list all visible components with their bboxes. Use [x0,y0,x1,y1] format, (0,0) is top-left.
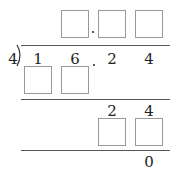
quotient-decimal-point [92,31,94,33]
subtraction-line-2 [21,150,170,151]
remainder-digit-2: 4 [142,103,156,119]
remainder-digit-1: 2 [105,103,119,119]
final-remainder: 0 [142,154,156,170]
dividend-digit-1: 1 [31,51,45,67]
dividend-digit-4: 4 [142,51,156,67]
dividend-digit-2: 6 [68,51,82,67]
subtraction-line-1 [21,99,170,100]
division-bar [21,45,170,46]
first-product-box-1[interactable] [24,66,52,94]
second-product-box-1[interactable] [98,118,126,146]
first-product-box-2[interactable] [61,66,89,94]
quotient-box-ones[interactable] [61,10,89,38]
second-product-box-2[interactable] [135,118,163,146]
dividend-decimal-point [93,64,95,66]
divisor: 4 [6,51,20,67]
quotient-box-hundredths[interactable] [135,10,163,38]
dividend-digit-3: 2 [105,51,119,67]
quotient-box-tenths[interactable] [98,10,126,38]
